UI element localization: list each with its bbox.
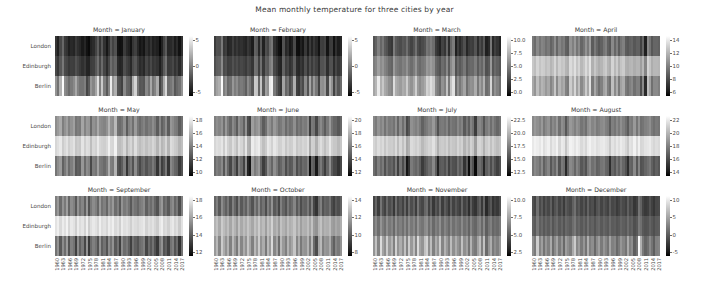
heatmap-row [532, 136, 660, 156]
facet-title: Month = January [55, 26, 183, 33]
colorbar-tick: 12 [670, 50, 679, 56]
heatmap[interactable] [373, 116, 501, 176]
colorbar: 2220181614 [666, 116, 670, 176]
facet-title: Month = September [55, 186, 183, 193]
colorbar-tick: -5 [670, 249, 678, 255]
x-tick-2002: 2002 [305, 258, 311, 271]
y-tick-berlin: Berlin [35, 83, 51, 89]
x-tick-2011: 2011 [484, 258, 490, 271]
colorbar-tick: 0 [193, 63, 199, 69]
heatmap-cell [181, 196, 183, 216]
colorbar-tick: 16 [193, 214, 202, 220]
heatmap-row [373, 56, 501, 76]
heatmap-cell [658, 196, 660, 216]
x-tick-2008: 2008 [477, 258, 483, 271]
heatmap-row [55, 156, 183, 176]
heatmap-cell [499, 156, 501, 176]
heatmap-cell [340, 56, 342, 76]
heatmap[interactable] [55, 196, 183, 256]
x-tick-1969: 1969 [73, 258, 79, 271]
heatmap[interactable] [532, 196, 660, 256]
heatmap[interactable] [55, 116, 183, 176]
x-tick-2002: 2002 [623, 258, 629, 271]
colorbar-tick: 18 [670, 143, 679, 149]
heatmap-cell [658, 156, 660, 176]
heatmap-cell [658, 116, 660, 136]
x-tick-2017: 2017 [179, 258, 185, 271]
x-tick-1981: 1981 [100, 258, 106, 271]
heatmap-row [532, 156, 660, 176]
heatmap-cell [181, 136, 183, 156]
x-tick-2008: 2008 [318, 258, 324, 271]
figure-canvas: Mean monthly temperature for three citie… [0, 0, 709, 290]
heatmap-row [373, 76, 501, 96]
heatmap[interactable] [532, 116, 660, 176]
x-tick-1978: 1978 [252, 258, 258, 271]
x-tick-1996: 1996 [292, 258, 298, 271]
colorbar: 18161412 [189, 196, 193, 256]
x-axis-labels: 1960196319661969197219751978198119841987… [214, 258, 342, 288]
heatmap[interactable] [373, 196, 501, 256]
heatmap-cell [181, 236, 183, 256]
heatmap-cell [181, 116, 183, 136]
colorbar-tick: 5 [670, 214, 676, 220]
heatmap[interactable] [55, 36, 183, 96]
colorbar-tick: 12 [352, 169, 361, 175]
colorbar: 1412108 [348, 196, 352, 256]
x-tick-1987: 1987 [272, 258, 278, 271]
heatmap[interactable] [214, 196, 342, 256]
heatmap-row [373, 156, 501, 176]
heatmap-row [55, 216, 183, 236]
heatmap-cell [499, 196, 501, 216]
heatmap[interactable] [214, 36, 342, 96]
x-tick-1981: 1981 [259, 258, 265, 271]
colorbar-tick: 5 [352, 37, 358, 43]
heatmap[interactable] [532, 36, 660, 96]
x-tick-2002: 2002 [464, 258, 470, 271]
colorbar-tick: 7.5 [511, 214, 522, 220]
heatmap-row [55, 236, 183, 256]
heatmap[interactable] [214, 116, 342, 176]
x-tick-1963: 1963 [378, 258, 384, 271]
facet-title: Month = March [373, 26, 501, 33]
x-tick-1972: 1972 [239, 258, 245, 271]
x-tick-2008: 2008 [636, 258, 642, 271]
y-tick-edinburgh: Edinburgh [22, 223, 51, 229]
colorbar-tick: 15.0 [511, 156, 526, 162]
colorbar-gradient [666, 196, 670, 256]
colorbar-tick: 7.5 [511, 50, 522, 56]
heatmap-cell [658, 216, 660, 236]
colorbar-tick: 17.5 [511, 143, 526, 149]
x-tick-1960: 1960 [372, 258, 378, 271]
facet-title: Month = June [214, 106, 342, 113]
x-tick-1960: 1960 [531, 258, 537, 271]
x-tick-2014: 2014 [173, 258, 179, 271]
x-tick-1966: 1966 [544, 258, 550, 271]
colorbar-tick: 10.0 [511, 37, 526, 43]
x-tick-1969: 1969 [550, 258, 556, 271]
x-tick-1993: 1993 [444, 258, 450, 271]
x-tick-1963: 1963 [219, 258, 225, 271]
colorbar-tick: 10.0 [511, 197, 526, 203]
x-tick-1996: 1996 [451, 258, 457, 271]
facet-title: Month = April [532, 26, 660, 33]
heatmap-row [214, 216, 342, 236]
heatmap-cell [658, 236, 660, 256]
colorbar-tick: 0 [670, 232, 676, 238]
heatmap-row [55, 76, 183, 96]
heatmap-cell [658, 56, 660, 76]
x-tick-1978: 1978 [411, 258, 417, 271]
colorbar-tick: 22 [670, 117, 679, 123]
x-tick-2002: 2002 [146, 258, 152, 271]
x-axis-labels: 1960196319661969197219751978198119841987… [55, 258, 183, 288]
heatmap-row [214, 56, 342, 76]
heatmap[interactable] [373, 36, 501, 96]
heatmap-cell [658, 136, 660, 156]
y-tick-edinburgh: Edinburgh [22, 63, 51, 69]
x-tick-2011: 2011 [325, 258, 331, 271]
y-tick-berlin: Berlin [35, 163, 51, 169]
x-tick-1984: 1984 [424, 258, 430, 271]
x-tick-2005: 2005 [153, 258, 159, 271]
heatmap-row [373, 236, 501, 256]
x-tick-1984: 1984 [583, 258, 589, 271]
